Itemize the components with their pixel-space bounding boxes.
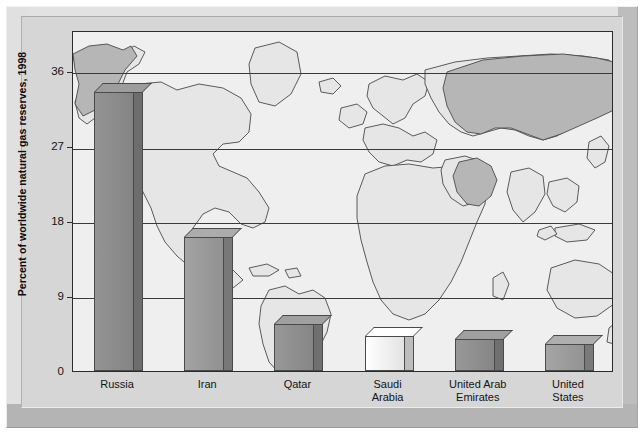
bar-country-iran[interactable] [184, 237, 224, 371]
x-tick-label-line2: States [520, 391, 616, 404]
gridline-18 [73, 223, 612, 224]
bar-side-3d [495, 339, 504, 371]
bar-face [94, 92, 134, 371]
gridline-36 [73, 73, 612, 74]
bar-top-3d [365, 327, 423, 336]
bar-top-3d [455, 330, 513, 339]
y-tick-label-18: 18 [30, 215, 64, 227]
x-tick-label-line1: Iran [159, 378, 255, 391]
bar-face [545, 344, 585, 371]
bar-top-3d [184, 228, 242, 237]
x-tick-label-line1: United Arab [430, 378, 526, 391]
bar-side-3d [134, 92, 143, 371]
bar-face [365, 336, 405, 371]
bar-side-3d [314, 324, 323, 371]
bar-face [455, 339, 495, 371]
y-tick-label-27: 27 [30, 140, 64, 152]
bar-top-3d [94, 83, 152, 92]
bar-face [274, 324, 314, 371]
chart-figure: Percent of worldwide natural gas reserve… [0, 0, 644, 434]
bar-face [184, 237, 224, 371]
bar-country-saudi[interactable] [365, 336, 405, 371]
y-axis-label: Percent of worldwide natural gas reserve… [16, 49, 28, 299]
x-tick-label-line1: United [520, 378, 616, 391]
x-tick-label-country-russia: Russia [69, 378, 165, 391]
bar-country-qatar[interactable] [274, 324, 314, 371]
x-tick-label-country-saudi: SaudiArabia [340, 378, 436, 404]
bar-side-3d [405, 336, 414, 371]
bar-top-3d [545, 335, 603, 344]
world-map-background [73, 32, 612, 371]
plot-area [72, 31, 613, 372]
x-tick-label-line1: Russia [69, 378, 165, 391]
x-tick-label-country-usa: UnitedStates [520, 378, 616, 404]
x-tick-label-line1: Saudi [340, 378, 436, 391]
bar-country-uae[interactable] [455, 339, 495, 371]
x-tick-label-line2: Emirates [430, 391, 526, 404]
gridline-27 [73, 149, 612, 150]
gridline-9 [73, 298, 612, 299]
x-tick-label-country-uae: United ArabEmirates [430, 378, 526, 404]
bar-country-usa[interactable] [545, 344, 585, 371]
frame-bevel-bottom [6, 404, 638, 428]
x-tick-label-line2: Arabia [340, 391, 436, 404]
x-tick-label-country-qatar: Qatar [249, 378, 345, 391]
x-tick-label-country-iran: Iran [159, 378, 255, 391]
bar-country-russia[interactable] [94, 92, 134, 371]
y-tick-label-36: 36 [30, 65, 64, 77]
bar-top-3d [274, 315, 332, 324]
y-tick-label-0: 0 [30, 365, 64, 377]
y-tick-label-9: 9 [30, 290, 64, 302]
bar-side-3d [585, 344, 594, 371]
bar-side-3d [224, 237, 233, 371]
x-tick-label-line1: Qatar [249, 378, 345, 391]
